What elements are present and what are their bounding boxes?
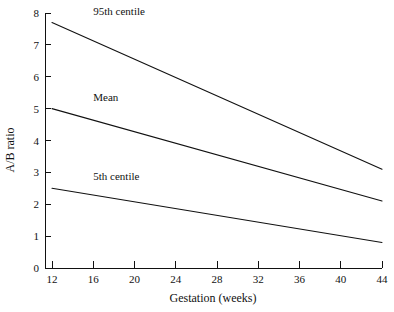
series-lines-group (52, 23, 382, 243)
y-tick-label: 7 (34, 39, 40, 51)
chart-figure: 012345678 121620242832364044 95th centil… (0, 0, 394, 312)
x-tick-label: 20 (129, 273, 141, 285)
series-label-mean: Mean (93, 91, 119, 103)
x-axis-title: Gestation (weeks) (170, 291, 257, 305)
x-tick-label: 28 (212, 273, 224, 285)
y-axis-ticks: 012345678 (34, 7, 52, 274)
x-tick-label: 32 (253, 273, 264, 285)
x-axis-ticks: 121620242832364044 (47, 261, 389, 285)
y-tick-label: 0 (34, 262, 40, 274)
y-tick-label: 8 (34, 7, 40, 19)
y-tick-label: 5 (34, 103, 40, 115)
y-tick-label: 6 (34, 71, 40, 83)
x-tick-label: 44 (377, 273, 389, 285)
series-label-5th-centile: 5th centile (93, 170, 139, 182)
y-axis-title: A/B ratio (3, 128, 17, 173)
series-line-mean (52, 109, 382, 201)
series-line-5th-centile (52, 188, 382, 242)
y-tick-label: 2 (34, 198, 40, 210)
x-tick-label: 12 (47, 273, 58, 285)
series-label-95th-centile: 95th centile (93, 5, 145, 17)
x-tick-label: 16 (88, 273, 100, 285)
x-tick-label: 36 (294, 273, 306, 285)
y-tick-label: 3 (34, 166, 40, 178)
y-tick-label: 4 (34, 135, 40, 147)
x-tick-label: 24 (170, 273, 182, 285)
x-tick-label: 40 (335, 273, 347, 285)
y-tick-label: 1 (34, 230, 40, 242)
series-labels-group: 95th centileMean5th centile (93, 5, 145, 183)
chart-plot-area: 012345678 121620242832364044 95th centil… (0, 0, 394, 312)
